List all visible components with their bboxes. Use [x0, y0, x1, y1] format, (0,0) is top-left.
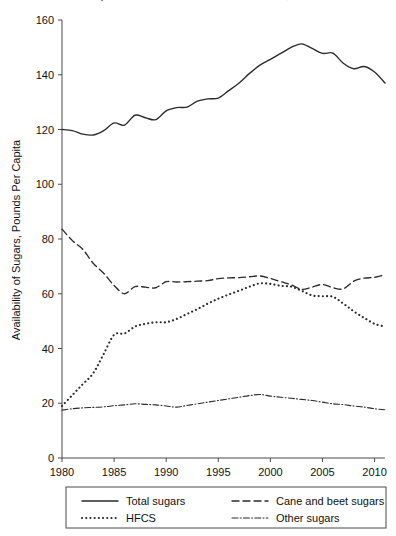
x-tick-label: 2000 — [258, 466, 282, 478]
x-tick-label: 1990 — [154, 466, 178, 478]
y-tick-label: 140 — [36, 69, 54, 81]
sugar-availability-line-chart: 020406080100120140160 198019851990199520… — [0, 0, 396, 536]
legend-label: Cane and beet sugars — [276, 495, 385, 507]
legend-label: HFCS — [126, 512, 156, 524]
y-tick-label: 80 — [42, 233, 54, 245]
figure-title-clipped: Availability of Caloric Sweeteners in th… — [0, 0, 396, 3]
series-line — [62, 394, 385, 410]
y-tick-label: 100 — [36, 178, 54, 190]
series-line — [62, 283, 385, 406]
data-series-group — [62, 44, 385, 410]
y-axis-title: Availability of Sugars, Pounds Per Capit… — [10, 139, 22, 340]
series-line — [62, 44, 385, 135]
x-tick-label: 2010 — [362, 466, 386, 478]
x-tick-label: 2005 — [310, 466, 334, 478]
y-tick-label: 0 — [48, 452, 54, 464]
y-tick-label: 60 — [42, 288, 54, 300]
chart-figure: Availability of Caloric Sweeteners in th… — [0, 0, 396, 536]
y-tick-label: 20 — [42, 397, 54, 409]
x-axis: 1980198519901995200020052010 — [50, 458, 387, 478]
y-axis: 020406080100120140160 — [36, 14, 62, 464]
series-line — [62, 229, 385, 294]
x-tick-label: 1985 — [102, 466, 126, 478]
chart-legend: Total sugarsCane and beet sugarsHFCSOthe… — [66, 487, 386, 528]
y-tick-label: 160 — [36, 14, 54, 26]
y-tick-label: 120 — [36, 124, 54, 136]
legend-label: Total sugars — [126, 495, 186, 507]
legend-label: Other sugars — [276, 512, 340, 524]
y-tick-label: 40 — [42, 343, 54, 355]
x-tick-label: 1995 — [206, 466, 230, 478]
x-tick-label: 1980 — [50, 466, 74, 478]
